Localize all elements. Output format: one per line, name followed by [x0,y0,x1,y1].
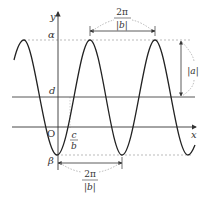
max-level-label: α [48,29,55,40]
origin-label: O [47,128,55,139]
y-axis-label: y [49,11,56,22]
period-top-numerator: 2π [116,7,128,17]
x-axis-label: x [191,129,197,140]
period-bottom-denominator: |b| [84,182,96,193]
sinusoid-diagram: 2π |b| |a| 2π |b| y x O α d β c b [0,0,209,198]
phase-shift-numerator: c [71,130,76,140]
amplitude-label: |a| [187,66,198,77]
phase-shift-denominator: b [71,141,77,151]
midline-label: d [49,85,55,96]
period-bottom-numerator: 2π [84,169,96,179]
sinusoid-curve [14,40,195,155]
min-level-label: β [47,155,54,166]
period-top-denominator: |b| [116,20,128,31]
